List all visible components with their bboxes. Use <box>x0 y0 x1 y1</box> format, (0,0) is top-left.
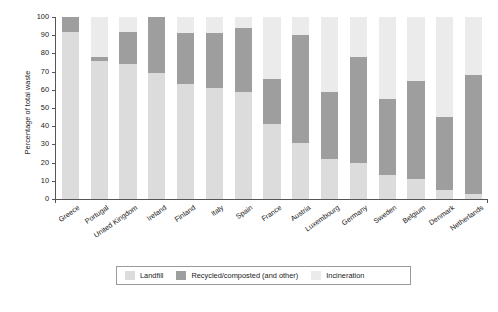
bar-segment <box>379 99 396 175</box>
y-axis-tick-label: 80 <box>41 48 49 57</box>
y-axis-tick-label: 90 <box>41 30 49 39</box>
bar-denmark[interactable] <box>436 17 453 199</box>
bar-segment <box>379 17 396 99</box>
bar-segment <box>235 92 252 199</box>
y-axis-tick-mark <box>52 199 55 200</box>
x-axis-label-france: France <box>260 203 283 223</box>
bar-portugal[interactable] <box>91 17 108 199</box>
y-axis-tick-mark <box>52 35 55 36</box>
bar-segment <box>292 143 309 199</box>
y-axis-tick-mark <box>52 163 55 164</box>
bar-finland[interactable] <box>177 17 194 199</box>
bar-luxembourg[interactable] <box>321 17 338 199</box>
bar-segment <box>292 35 309 142</box>
y-axis-tick-label: 70 <box>41 67 49 76</box>
bar-segment <box>407 17 424 81</box>
bar-segment <box>235 28 252 92</box>
x-axis-label-greece: Greece <box>57 203 81 224</box>
bar-segment <box>177 17 194 33</box>
x-axis-label-belgium: Belgium <box>401 203 427 225</box>
bar-united-kingdom[interactable] <box>119 17 136 199</box>
bar-segment <box>407 179 424 199</box>
bar-germany[interactable] <box>350 17 367 199</box>
legend-item[interactable]: Incineration <box>311 271 364 280</box>
bar-sweden[interactable] <box>379 17 396 199</box>
y-axis-tick-label: 100 <box>37 12 49 21</box>
bar-segment <box>91 17 108 57</box>
bar-segment <box>62 17 79 32</box>
bar-segment <box>292 17 309 35</box>
bar-segment <box>407 81 424 179</box>
bar-segment <box>206 33 223 88</box>
chart-legend: LandfillRecycled/composted (and other)In… <box>116 266 411 285</box>
y-axis-tick-mark <box>52 181 55 182</box>
bar-segment <box>465 75 482 193</box>
legend-item[interactable]: Recycled/composted (and other) <box>176 271 298 280</box>
bar-segment <box>62 32 79 199</box>
bar-segment <box>350 163 367 199</box>
y-axis-tick-mark <box>52 126 55 127</box>
bar-segment <box>436 117 453 190</box>
bar-segment <box>177 33 194 84</box>
y-axis-tick-mark <box>52 108 55 109</box>
bar-segment <box>119 64 136 199</box>
bar-segment <box>321 92 338 159</box>
bar-segment <box>148 17 165 73</box>
bar-segment <box>235 17 252 28</box>
y-axis-tick-label: 30 <box>41 139 49 148</box>
y-axis-tick-label: 60 <box>41 85 49 94</box>
bar-segment <box>206 17 223 33</box>
x-axis-label-germany: Germany <box>340 203 369 227</box>
y-axis-tick-label: 50 <box>41 103 49 112</box>
bar-segment <box>119 32 136 65</box>
legend-label: Incineration <box>326 271 364 280</box>
x-axis-label-ireland: Ireland <box>145 203 168 223</box>
bar-segment <box>321 17 338 92</box>
bar-austria[interactable] <box>292 17 309 199</box>
y-axis-tick-label: 10 <box>41 176 49 185</box>
legend-swatch <box>311 271 321 280</box>
x-axis-label-austria: Austria <box>288 203 311 223</box>
bar-france[interactable] <box>263 17 280 199</box>
legend-item[interactable]: Landfill <box>125 271 163 280</box>
x-axis-line <box>55 199 488 200</box>
x-axis-label-sweden: Sweden <box>372 203 398 225</box>
bar-segment <box>436 17 453 117</box>
x-axis-cap-left <box>55 199 56 203</box>
bar-segment <box>91 61 108 199</box>
bar-segment <box>321 159 338 199</box>
bar-segment <box>465 17 482 75</box>
y-axis-tick-mark <box>52 72 55 73</box>
x-axis-cap-right <box>487 199 488 203</box>
legend-label: Landfill <box>140 271 163 280</box>
bar-segment <box>119 17 136 32</box>
y-axis-tick-mark <box>52 17 55 18</box>
y-axis-tick-label: 20 <box>41 158 49 167</box>
legend-label: Recycled/composted (and other) <box>191 271 298 280</box>
bar-segment <box>91 57 108 61</box>
y-axis-tick-mark <box>52 144 55 145</box>
bar-ireland[interactable] <box>148 17 165 199</box>
bar-segment <box>350 17 367 57</box>
y-axis-tick-label: 0 <box>45 194 49 203</box>
bar-greece[interactable] <box>62 17 79 199</box>
y-axis-tick-mark <box>52 53 55 54</box>
bar-segment <box>436 190 453 199</box>
bar-segment <box>379 175 396 199</box>
bar-segment <box>263 79 280 125</box>
bar-belgium[interactable] <box>407 17 424 199</box>
bar-segment <box>465 194 482 199</box>
figure-container: Percentage of total waste 01020304050607… <box>0 0 498 312</box>
legend-swatch <box>176 271 186 280</box>
bar-italy[interactable] <box>206 17 223 199</box>
y-axis-title: Percentage of total waste <box>23 28 32 198</box>
bar-segment <box>263 124 280 199</box>
bar-spain[interactable] <box>235 17 252 199</box>
bar-segment <box>350 57 367 163</box>
bar-segment <box>177 84 194 199</box>
bar-segment <box>148 73 165 199</box>
y-axis-tick-mark <box>52 90 55 91</box>
y-axis-tick-label: 40 <box>41 121 49 130</box>
bar-segment <box>206 88 223 199</box>
bar-netherlands[interactable] <box>465 17 482 199</box>
